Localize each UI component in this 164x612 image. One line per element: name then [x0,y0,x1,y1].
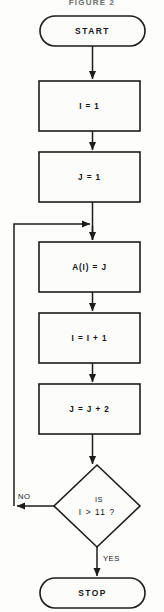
decision-diamond [54,465,140,547]
process-box-step2-label: J = 1 [78,173,101,182]
process-box-step1-label: I = 1 [79,102,100,111]
decision-label-line2: I > 11 ? [79,507,115,517]
process-box-step3-label: A(I) = J [72,263,107,272]
flowchart-page: FIGURE 2 START I = 1 J = 1 A(I) = J I = … [0,0,164,612]
figure-title: FIGURE 2 [69,0,116,7]
process-box-step4-label: I = I + 1 [72,334,108,343]
branch-label-no: NO [18,492,30,501]
process-box-step5-label: J = J + 2 [69,405,109,414]
start-terminal-label: START [75,26,110,36]
branch-label-yes: YES [103,554,120,563]
stop-terminal-label: STOP [78,588,107,598]
decision-label-line1: IS [95,495,103,504]
flowchart-diagram: FIGURE 2 START I = 1 J = 1 A(I) = J I = … [0,0,164,612]
